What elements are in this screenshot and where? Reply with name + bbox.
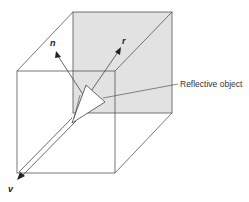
reflective-object-label: Reflective object — [180, 79, 243, 89]
view-label: v — [8, 184, 14, 194]
reflection-diagram: n r v Reflective object — [0, 0, 249, 202]
normal-label: n — [50, 38, 56, 48]
reflected-label: r — [122, 36, 126, 46]
view-vector-arrow — [17, 118, 76, 180]
